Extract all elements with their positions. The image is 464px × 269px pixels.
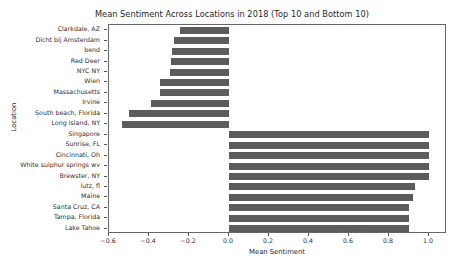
bar xyxy=(160,79,229,86)
x-tick-mark xyxy=(188,233,189,236)
y-tick-mark xyxy=(104,71,107,72)
y-tick-label: Clarkdale, AZ xyxy=(58,26,100,32)
y-tick-mark xyxy=(104,207,107,208)
x-tick-label: −0.6 xyxy=(100,238,115,244)
y-tick-mark xyxy=(104,102,107,103)
y-tick-label: NYC NY xyxy=(77,68,100,74)
x-tick-mark xyxy=(428,233,429,236)
bar xyxy=(180,27,229,34)
y-tick-mark xyxy=(104,186,107,187)
bar xyxy=(229,183,415,190)
y-tick-label: Dicht bij Amsterdam xyxy=(35,37,100,43)
bar xyxy=(172,48,229,55)
x-tick-mark xyxy=(228,233,229,236)
x-tick-label: 0.4 xyxy=(303,238,313,244)
y-tick-label: Sunrise, FL xyxy=(65,141,100,147)
x-tick-label: 0.2 xyxy=(263,238,273,244)
x-axis-title: Mean Sentiment xyxy=(108,248,446,256)
y-tick-mark xyxy=(104,92,107,93)
y-tick-label: Lake Tahoe xyxy=(65,225,100,231)
x-tick-mark xyxy=(308,233,309,236)
y-tick-mark xyxy=(104,81,107,82)
bar xyxy=(229,194,413,201)
y-tick-label: Singapore xyxy=(68,131,100,137)
bar xyxy=(171,58,229,65)
bar xyxy=(229,215,409,222)
y-tick-label: Irvine xyxy=(82,99,100,105)
y-tick-label: lutz, fl xyxy=(81,183,100,189)
bar xyxy=(174,37,229,44)
bar xyxy=(122,121,229,128)
y-tick-label: Red Deer xyxy=(71,57,100,63)
bar xyxy=(229,142,429,149)
y-tick-label: Cincinnati, Oh xyxy=(56,151,100,157)
chart-title: Mean Sentiment Across Locations in 2018 … xyxy=(0,9,464,19)
x-tick-label: 0.0 xyxy=(223,238,233,244)
bar-series xyxy=(109,25,445,232)
plot-area xyxy=(108,24,446,233)
y-tick-label: Wien xyxy=(84,78,100,84)
bar xyxy=(229,163,429,170)
y-tick-mark xyxy=(104,144,107,145)
y-tick-mark xyxy=(104,228,107,229)
x-tick-mark xyxy=(268,233,269,236)
y-tick-mark xyxy=(104,29,107,30)
y-tick-label: Tampa, Florida xyxy=(54,214,100,220)
x-tick-label: −0.2 xyxy=(180,238,195,244)
x-tick-mark xyxy=(108,233,109,236)
y-tick-mark xyxy=(104,176,107,177)
y-tick-label: White sulphur springs wv xyxy=(20,162,100,168)
bar xyxy=(151,100,229,107)
bar xyxy=(229,152,429,159)
x-tick-mark xyxy=(388,233,389,236)
y-tick-label: bend xyxy=(84,47,100,53)
y-axis-tick-labels: Clarkdale, AZDicht bij AmsterdambendRed … xyxy=(0,24,106,233)
bar xyxy=(160,89,229,96)
y-tick-mark xyxy=(104,134,107,135)
y-tick-mark xyxy=(104,61,107,62)
bar xyxy=(229,131,429,138)
x-tick-label: 0.6 xyxy=(343,238,353,244)
y-tick-label: Santa Cruz, CA xyxy=(53,204,100,210)
matplotlib-figure: Mean Sentiment Across Locations in 2018 … xyxy=(0,0,464,269)
y-tick-mark xyxy=(104,40,107,41)
y-tick-mark xyxy=(104,196,107,197)
bar xyxy=(229,225,409,232)
bar xyxy=(170,69,229,76)
y-tick-mark xyxy=(104,217,107,218)
y-tick-label: South beach, Florida xyxy=(35,110,100,116)
y-tick-mark xyxy=(104,123,107,124)
bar xyxy=(129,110,229,117)
y-tick-mark xyxy=(104,50,107,51)
y-tick-label: Long Island, NY xyxy=(51,120,100,126)
y-tick-mark xyxy=(104,113,107,114)
x-tick-label: 1.0 xyxy=(423,238,433,244)
x-tick-mark xyxy=(348,233,349,236)
y-tick-label: Massachusetts xyxy=(53,89,100,95)
y-tick-mark xyxy=(104,165,107,166)
bar xyxy=(229,204,409,211)
x-tick-mark xyxy=(148,233,149,236)
x-tick-label: 0.8 xyxy=(383,238,393,244)
y-tick-label: Maine xyxy=(81,193,100,199)
y-tick-mark xyxy=(104,155,107,156)
x-tick-label: −0.4 xyxy=(140,238,155,244)
bar xyxy=(229,173,429,180)
y-tick-label: Brewster, NY xyxy=(59,172,100,178)
